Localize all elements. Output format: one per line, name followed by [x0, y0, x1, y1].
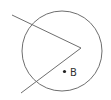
point-b-label: B: [70, 67, 77, 78]
geometry-diagram: B: [0, 0, 111, 100]
point-b: [63, 70, 66, 73]
circle: [22, 11, 102, 91]
